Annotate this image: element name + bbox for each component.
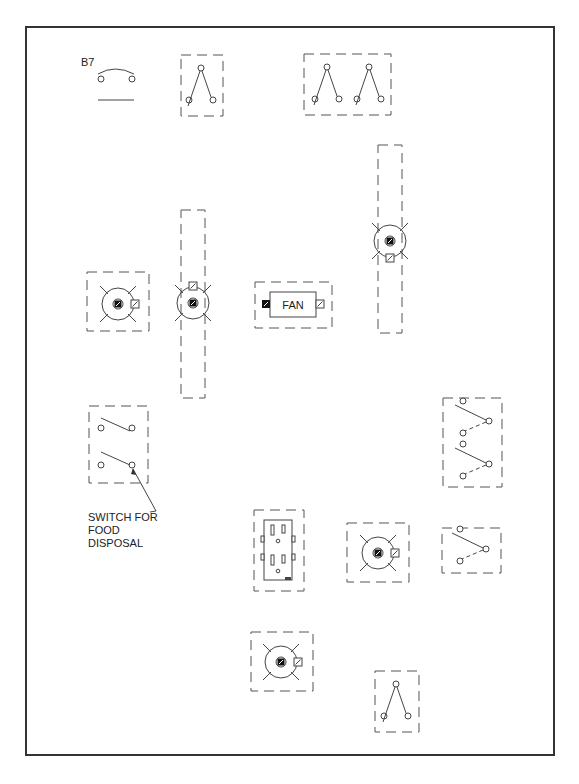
ceiling-light-mid <box>347 523 409 582</box>
fan-label: FAN <box>282 299 303 311</box>
three-way-switch-top <box>181 55 223 116</box>
ceiling-light-bottom <box>251 632 313 691</box>
b7-symbol: B7 <box>81 56 135 100</box>
callout-leader <box>133 469 156 512</box>
three-way-switch-bottom <box>375 671 419 732</box>
arc-icon <box>98 69 134 74</box>
ceiling-light-strip-right <box>372 145 408 333</box>
callout-line-1: SWITCH FOR <box>88 511 158 523</box>
ceiling-light-left <box>87 272 149 331</box>
b7-label: B7 <box>81 56 94 68</box>
callout-line-3: DISPOSAL <box>88 537 143 549</box>
four-way-switch-double <box>443 398 502 487</box>
fan-box: FAN <box>255 282 332 328</box>
callout-line-2: FOOD <box>88 524 120 536</box>
duplex-receptacle <box>254 510 304 591</box>
four-way-switch-single <box>442 526 501 573</box>
three-way-switch-gang <box>304 54 391 115</box>
drawing-frame <box>26 27 554 755</box>
disposal-switch <box>89 406 156 512</box>
ceiling-light-strip-left <box>175 210 211 398</box>
wiring-diagram: B7 FAN <box>0 0 579 784</box>
